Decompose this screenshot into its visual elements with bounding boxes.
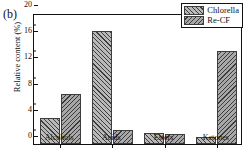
y-tick-label: 16 (24, 27, 32, 35)
figure-panel-b: (b) Relative content (%) 048121620 Alcoh… (0, 0, 247, 165)
y-minor-tick-6 (34, 103, 36, 104)
y-tick-mark (34, 57, 38, 58)
y-tick-mark (34, 110, 38, 111)
x-tick-mark-esters (165, 144, 166, 148)
x-tick-label-alcohols: Alcohols (45, 133, 74, 142)
y-tick-label: 4 (28, 106, 32, 114)
x-tick-label-esters: Esters (154, 133, 174, 142)
plot-area: 048121620 (33, 14, 242, 145)
y-tick-12: 12 (24, 53, 34, 61)
x-tick-mark-alcohols (60, 144, 61, 148)
y-minor-tick-10 (34, 77, 36, 78)
legend-item-re-cf[interactable]: Re-CF (184, 16, 239, 25)
y-tick-4: 4 (28, 106, 34, 114)
y-tick-16: 16 (24, 27, 34, 35)
x-tick-label-ketones: Ketones (203, 133, 229, 142)
y-tick-20: 20 (24, 1, 34, 9)
y-tick-8: 8 (28, 80, 34, 88)
y-minor-tick-18 (34, 25, 36, 26)
y-tick-mark (34, 5, 38, 6)
y-tick-label: 0 (28, 132, 32, 140)
bar-acids-chlorella (92, 31, 112, 144)
legend-swatch-icon (184, 16, 204, 25)
legend-item-chlorella[interactable]: Chlorella (184, 6, 239, 15)
y-tick-label: 8 (28, 80, 32, 88)
y-tick-label: 12 (24, 53, 32, 61)
x-tick-mark-ketones (217, 144, 218, 148)
y-minor-tick-2 (34, 129, 36, 130)
y-tick-mark (34, 136, 38, 137)
chart-legend: ChlorellaRe-CF (181, 3, 243, 28)
y-tick-label: 20 (24, 1, 32, 9)
x-tick-label-acids: Acids (102, 133, 121, 142)
legend-swatch-icon (184, 6, 204, 15)
y-tick-0: 0 (28, 132, 34, 140)
y-axis-label: Relative content (%) (12, 2, 22, 112)
y-tick-mark (34, 84, 38, 85)
bar-ketones-re-cf (217, 51, 237, 144)
x-tick-mark-acids (112, 144, 113, 148)
y-tick-mark (34, 31, 38, 32)
legend-item-label: Chlorella (207, 6, 239, 15)
y-minor-tick-14 (34, 51, 36, 52)
legend-item-label: Re-CF (207, 16, 230, 25)
